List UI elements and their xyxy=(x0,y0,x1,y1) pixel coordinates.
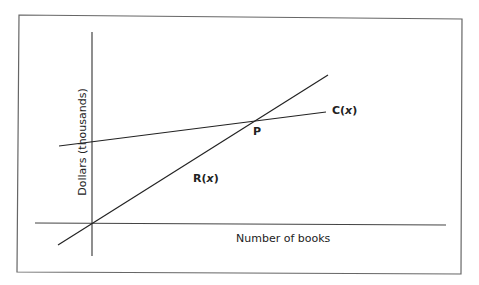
y-axis-label: Dollars (thousands) xyxy=(76,88,89,196)
break-even-diagram: Number of books Dollars (thousands) C(x)… xyxy=(0,0,479,285)
break-even-point-label: P xyxy=(253,125,261,138)
x-axis xyxy=(35,223,446,225)
cost-line-label: C(x) xyxy=(332,104,357,117)
revenue-line xyxy=(58,75,328,245)
x-axis-label: Number of books xyxy=(236,232,330,245)
cost-line xyxy=(59,112,326,146)
revenue-line-label: R(x) xyxy=(193,172,219,185)
revenue-close-paren: ) xyxy=(214,172,219,185)
cost-close-paren: ) xyxy=(352,104,357,117)
cost-func-name: C xyxy=(332,104,340,117)
revenue-func-arg: x xyxy=(207,172,214,185)
